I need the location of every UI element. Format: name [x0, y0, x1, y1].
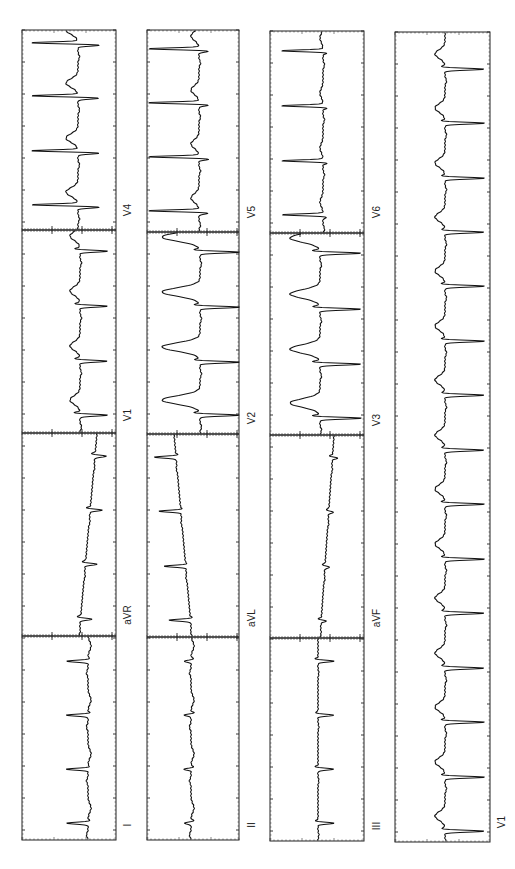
lead-label-v4: V4: [122, 203, 133, 216]
lead-label-i: I: [122, 824, 133, 827]
ecg-sheet: V4V1aVRIV5V2aVLIIV6V3aVFIIIV1: [0, 0, 515, 869]
lead-label-ii: II: [246, 822, 257, 828]
lead-label-iii: III: [371, 822, 382, 830]
lead-label-v6: V6: [371, 205, 382, 218]
paper-background: [0, 0, 515, 869]
lead-label-v1: V1: [496, 815, 507, 828]
lead-label-avl: aVL: [246, 609, 257, 627]
lead-label-v5: V5: [246, 205, 257, 218]
lead-label-avr: aVR: [122, 605, 133, 624]
lead-label-v3: V3: [371, 413, 382, 426]
lead-label-v2: V2: [246, 411, 257, 424]
lead-label-avf: aVF: [371, 609, 382, 627]
lead-label-v1: V1: [122, 408, 133, 421]
